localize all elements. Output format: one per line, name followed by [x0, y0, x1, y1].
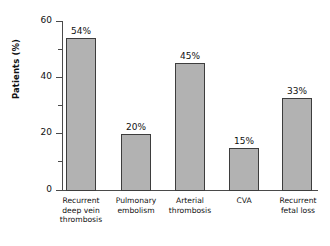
x-category-line: Pulmonary: [111, 196, 161, 206]
bar-value-recurrent-fetal-loss: 33%: [277, 86, 317, 96]
y-tick-minor-50: [58, 49, 62, 50]
x-category-line: CVA: [219, 196, 269, 206]
y-tick-major-0: [56, 190, 62, 191]
bar-value-cva: 15%: [224, 136, 264, 146]
bar-arterial-thrombosis: [175, 63, 205, 191]
y-tick-label-20: 20: [12, 128, 52, 137]
bar-value-recurrent-deep-vein-thrombosis: 54%: [61, 26, 101, 36]
y-tick-minor-30: [58, 105, 62, 106]
x-category-label-recurrent-deep-vein-thrombosis: Recurrent deep vein thrombosis: [56, 196, 106, 225]
x-category-line: embolism: [111, 206, 161, 216]
y-axis-title: Patients (%): [11, 19, 25, 119]
y-tick-major-40: [56, 77, 62, 78]
x-category-line: Recurrent: [56, 196, 106, 206]
y-tick-minor-10: [58, 161, 62, 162]
x-category-line: fetal loss: [272, 206, 324, 216]
bar-chart: Patients (%) 60 40 20 0 54% 20% 45% 15% …: [0, 0, 330, 246]
bar-recurrent-fetal-loss: [282, 98, 312, 191]
bar-cva: [229, 148, 259, 191]
x-category-label-pulmonary-embolism: Pulmonary embolism: [111, 196, 161, 215]
y-tick-major-20: [56, 133, 62, 134]
x-category-label-cva: CVA: [219, 196, 269, 206]
bar-recurrent-deep-vein-thrombosis: [66, 38, 96, 191]
bar-value-arterial-thrombosis: 45%: [170, 51, 210, 61]
x-category-line: thrombosis: [165, 206, 215, 216]
bar-pulmonary-embolism: [121, 134, 151, 191]
y-tick-label-60: 60: [12, 16, 52, 25]
x-category-line: Arterial: [165, 196, 215, 206]
bar-value-pulmonary-embolism: 20%: [116, 122, 156, 132]
x-category-label-arterial-thrombosis: Arterial thrombosis: [165, 196, 215, 215]
x-category-label-recurrent-fetal-loss: Recurrent fetal loss: [272, 196, 324, 215]
y-tick-major-60: [56, 21, 62, 22]
y-tick-label-0: 0: [12, 185, 52, 194]
x-category-line: thrombosis: [56, 215, 106, 225]
x-category-line: deep vein: [56, 206, 106, 216]
y-axis-line: [62, 21, 63, 191]
x-category-line: Recurrent: [272, 196, 324, 206]
y-tick-label-40: 40: [12, 72, 52, 81]
